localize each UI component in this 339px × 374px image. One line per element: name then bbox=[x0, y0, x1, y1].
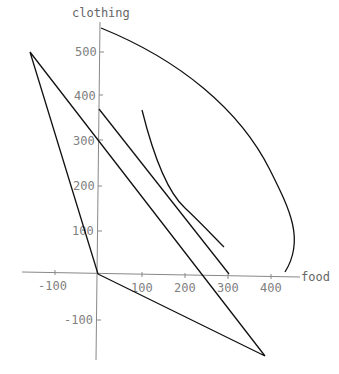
x-tick-200: 200 bbox=[174, 281, 196, 295]
x-tick-100: 100 bbox=[131, 281, 153, 295]
series bbox=[30, 28, 294, 356]
x-axis bbox=[22, 272, 300, 277]
budget-line bbox=[99, 109, 229, 274]
y-tick-m100: -100 bbox=[64, 313, 93, 327]
y-tick-400: 400 bbox=[74, 89, 96, 103]
frontier-arc bbox=[101, 28, 294, 272]
y-axis-label: clothing bbox=[72, 6, 130, 20]
y-axis bbox=[96, 22, 100, 360]
x-tick-m100: -100 bbox=[38, 279, 67, 293]
triangle bbox=[30, 52, 265, 356]
chart: -100 100 200 300 400 -100 100 200 300 40… bbox=[0, 0, 339, 374]
axes bbox=[22, 22, 300, 360]
x-tick-300: 300 bbox=[217, 281, 239, 295]
y-tick-300: 300 bbox=[73, 134, 95, 148]
x-axis-label: food bbox=[301, 270, 330, 284]
y-tick-500: 500 bbox=[75, 45, 97, 59]
x-tick-400: 400 bbox=[260, 281, 282, 295]
y-tick-200: 200 bbox=[73, 179, 95, 193]
